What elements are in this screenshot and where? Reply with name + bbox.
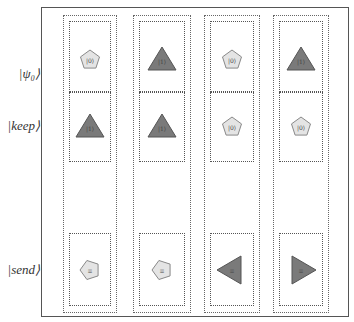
column-4-send-box [279, 233, 323, 306]
column-1-keep-box [69, 92, 111, 162]
column-4-psi0-box [279, 21, 323, 92]
row-label-send: |send⟩ [0, 262, 40, 278]
column-3-psi0-box [210, 21, 254, 92]
row-label-psi0: |ψ₀⟩ [0, 66, 40, 82]
column-3-send-box [210, 233, 254, 306]
column-1-send-box [69, 233, 111, 306]
column-2-keep-box [139, 92, 185, 162]
row-label-keep: |keep⟩ [0, 118, 40, 134]
column-2-psi0-box [139, 21, 185, 92]
column-4-keep-box [279, 92, 323, 162]
column-3-keep-box [210, 92, 254, 162]
column-2-send-box [139, 233, 185, 306]
column-1-psi0-box [69, 21, 111, 92]
